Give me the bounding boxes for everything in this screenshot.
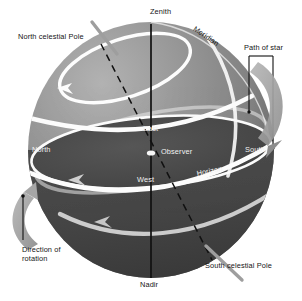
label-observer: Observer [161, 148, 192, 157]
label-south: South [245, 146, 265, 155]
rotation-leader-dot [21, 194, 25, 198]
label-east: East [143, 125, 158, 134]
rotation-ribbon-left-body [13, 192, 39, 250]
label-south-celestial-pole: South celestial Pole [205, 262, 272, 271]
label-path-of-star: Path of star [244, 44, 283, 53]
label-north-celestial-pole: North celestial Pole [18, 33, 84, 42]
celestial-sphere-figure: Zenith Meridian North celestial Pole Pat… [0, 0, 302, 301]
label-north: North [32, 146, 51, 155]
label-zenith: Zenith [150, 8, 171, 17]
bracket-dot-upper [247, 110, 250, 113]
rotation-ribbon-left [13, 182, 39, 250]
label-direction-of-rotation: Direction of rotation [22, 246, 84, 263]
label-nadir: Nadir [140, 281, 158, 290]
label-west: West [137, 176, 154, 185]
observer-dot [147, 150, 155, 155]
observer-marker [147, 150, 155, 155]
